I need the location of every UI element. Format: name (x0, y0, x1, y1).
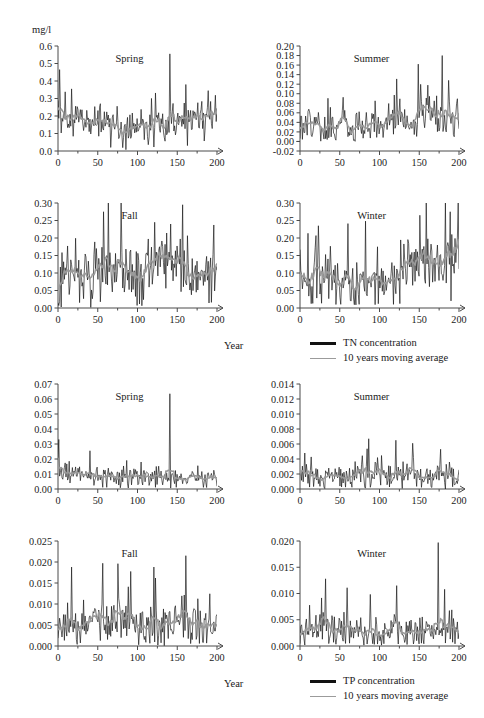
svg-text:0.00: 0.00 (34, 484, 52, 495)
svg-text:0.010: 0.010 (29, 599, 52, 610)
svg-text:0.5: 0.5 (39, 58, 52, 69)
svg-text:0.10: 0.10 (276, 88, 294, 99)
svg-text:Fall: Fall (121, 548, 137, 559)
legend-entry: TP concentration (310, 674, 448, 689)
svg-text:0.01: 0.01 (34, 469, 52, 480)
svg-text:200: 200 (451, 157, 466, 168)
svg-text:0.02: 0.02 (34, 454, 52, 465)
svg-text:150: 150 (412, 314, 427, 325)
svg-text:0.00: 0.00 (34, 303, 52, 314)
svg-text:0.14: 0.14 (276, 69, 294, 80)
svg-text:100: 100 (130, 495, 145, 506)
legend-line-swatch-thick (310, 680, 336, 682)
x-axis-title-top: Year (224, 340, 243, 351)
svg-text:0.25: 0.25 (34, 215, 52, 226)
svg-text:0.10: 0.10 (34, 268, 52, 279)
svg-text:50: 50 (93, 314, 103, 325)
svg-text:0.12: 0.12 (276, 79, 294, 90)
svg-text:0.16: 0.16 (276, 60, 294, 71)
svg-text:0: 0 (297, 314, 302, 325)
legend-entry-label: TP concentration (343, 676, 415, 687)
svg-text:0.05: 0.05 (34, 409, 52, 420)
svg-text:Winter: Winter (357, 210, 386, 221)
chart-panel-tp-summer: 0.0000.0020.0040.0060.0080.0100.0120.014… (248, 372, 478, 522)
svg-text:0.06: 0.06 (34, 394, 52, 405)
svg-text:0.08: 0.08 (276, 98, 294, 109)
chart-panel-tp-fall: 0.0000.0050.0100.0150.0200.0250501001502… (6, 529, 236, 679)
chart-panel-tp-winter: 0.0000.0050.0100.0150.020050100150200Win… (248, 529, 478, 679)
svg-text:0.07: 0.07 (34, 379, 52, 390)
svg-text:0.06: 0.06 (276, 107, 294, 118)
svg-text:0.000: 0.000 (271, 484, 294, 495)
svg-text:50: 50 (93, 495, 103, 506)
svg-text:0.010: 0.010 (271, 588, 294, 599)
svg-text:0.10: 0.10 (276, 268, 294, 279)
svg-text:0.20: 0.20 (34, 233, 52, 244)
x-axis-title-bottom: Year (224, 678, 243, 689)
svg-text:0.05: 0.05 (276, 285, 294, 296)
svg-text:200: 200 (451, 314, 466, 325)
svg-text:0.025: 0.025 (29, 536, 52, 547)
chart-panel-tn-spring: 0.00.10.20.30.40.50.6050100150200Spring (6, 34, 236, 184)
svg-text:0.005: 0.005 (271, 614, 294, 625)
svg-text:0.014: 0.014 (271, 379, 294, 390)
svg-text:Fall: Fall (121, 210, 137, 221)
svg-text:50: 50 (335, 157, 345, 168)
svg-text:0.6: 0.6 (39, 41, 52, 52)
legend-entry-label: TN concentration (343, 338, 417, 349)
legend-line-swatch-thick (310, 342, 336, 344)
svg-text:50: 50 (93, 157, 103, 168)
svg-text:0.00: 0.00 (276, 136, 294, 147)
svg-text:0: 0 (55, 157, 60, 168)
svg-text:0.004: 0.004 (271, 454, 294, 465)
svg-text:200: 200 (209, 157, 224, 168)
svg-text:0.020: 0.020 (271, 536, 294, 547)
svg-text:0: 0 (55, 314, 60, 325)
chart-panel-tn-winter: 0.000.050.100.150.200.250.30050100150200… (248, 191, 478, 341)
legend-line-swatch-thin (310, 358, 336, 359)
svg-text:Spring: Spring (116, 53, 145, 64)
svg-text:200: 200 (451, 652, 466, 663)
svg-text:0.4: 0.4 (39, 76, 52, 87)
svg-text:-0.02: -0.02 (273, 146, 294, 157)
svg-text:0.006: 0.006 (271, 439, 294, 450)
svg-text:0.20: 0.20 (276, 233, 294, 244)
legend-entry-label: 10 years moving average (343, 353, 448, 364)
svg-text:0.03: 0.03 (34, 439, 52, 450)
svg-text:0.015: 0.015 (271, 562, 294, 573)
legend-tn: TN concentration10 years moving average (310, 336, 448, 366)
svg-text:200: 200 (209, 314, 224, 325)
svg-text:0.3: 0.3 (39, 93, 52, 104)
chart-panel-tn-fall: 0.000.050.100.150.200.250.30050100150200… (6, 191, 236, 341)
svg-text:0: 0 (297, 157, 302, 168)
svg-text:50: 50 (335, 314, 345, 325)
svg-text:50: 50 (335, 495, 345, 506)
svg-text:Spring: Spring (116, 391, 145, 402)
svg-text:0.1: 0.1 (39, 128, 52, 139)
svg-text:150: 150 (170, 314, 185, 325)
legend-entry-label: 10 years moving average (343, 691, 448, 702)
svg-text:0.18: 0.18 (276, 50, 294, 61)
svg-text:100: 100 (130, 652, 145, 663)
svg-text:0.30: 0.30 (34, 198, 52, 209)
svg-text:0.05: 0.05 (34, 285, 52, 296)
svg-text:0.020: 0.020 (29, 557, 52, 568)
svg-text:0.005: 0.005 (29, 620, 52, 631)
svg-text:0: 0 (297, 652, 302, 663)
legend-tp: TP concentration10 years moving average (310, 674, 448, 704)
svg-text:0.04: 0.04 (34, 424, 52, 435)
svg-text:0.000: 0.000 (271, 641, 294, 652)
svg-text:200: 200 (451, 495, 466, 506)
svg-text:0: 0 (297, 495, 302, 506)
svg-text:0.20: 0.20 (276, 41, 294, 52)
svg-text:150: 150 (412, 652, 427, 663)
svg-text:0.000: 0.000 (29, 641, 52, 652)
legend-entry: 10 years moving average (310, 689, 448, 704)
svg-text:0.00: 0.00 (276, 303, 294, 314)
svg-text:0.0: 0.0 (39, 146, 52, 157)
svg-text:150: 150 (412, 157, 427, 168)
svg-text:100: 100 (372, 495, 387, 506)
svg-text:50: 50 (93, 652, 103, 663)
svg-text:100: 100 (372, 652, 387, 663)
svg-text:0.010: 0.010 (271, 409, 294, 420)
